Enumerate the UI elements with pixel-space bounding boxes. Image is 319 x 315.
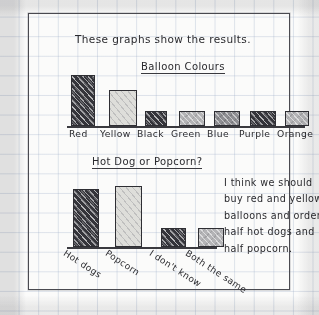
label-black: Black [137, 128, 164, 139]
conclusion-note: I think we shouldbuy red and yellowballo… [224, 175, 316, 257]
label-popcorn: Popcorn [104, 248, 142, 278]
intro-sentence: These graphs show the results. [75, 33, 251, 45]
bar-purple [250, 111, 276, 126]
bar-black [145, 111, 167, 126]
label-green: Green [171, 128, 201, 139]
bar-red [71, 75, 95, 126]
bar-blue [214, 111, 240, 126]
conclusion-line-1: I think we should [224, 175, 316, 191]
conclusion-line-4: half hot dogs and [224, 224, 316, 240]
label-red: Red [69, 128, 88, 139]
label-hot-dogs: Hot dogs [62, 248, 104, 280]
bar-green [179, 111, 205, 126]
conclusion-line-3: balloons and order [224, 208, 316, 224]
label-yellow: Yellow [100, 128, 131, 139]
conclusion-line-5: half popcorn. [224, 241, 316, 257]
bar-yellow [109, 90, 137, 126]
bar-popcorn [115, 186, 142, 247]
hotdog-popcorn-bar-chart [67, 176, 217, 250]
work-frame-border: These graphs show the results. Balloon C… [28, 13, 290, 290]
hotdog-chart-title: Hot Dog or Popcorn? [92, 156, 202, 169]
bar-orange [285, 111, 309, 126]
balloon-chart-category-labels: RedYellowBlackGreenBluePurpleOrange [67, 128, 317, 142]
bar-i-don-t-know [161, 228, 186, 247]
bar-hot-dogs [73, 189, 99, 247]
worksheet-page: These graphs show the results. Balloon C… [0, 0, 319, 315]
conclusion-line-2: buy red and yellow [224, 191, 316, 207]
hotdog-chart-category-labels: Hot dogsPopcornI don't knowBoth the same [67, 248, 247, 306]
label-purple: Purple [239, 128, 270, 139]
label-orange: Orange [277, 128, 313, 139]
bar-both-the-same [198, 228, 224, 247]
label-blue: Blue [207, 128, 229, 139]
